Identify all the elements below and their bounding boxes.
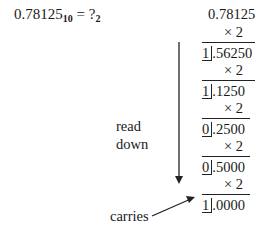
carries-arrow-icon	[152, 196, 195, 216]
read-down-arrow-icon	[175, 42, 183, 184]
arrows	[0, 0, 267, 237]
